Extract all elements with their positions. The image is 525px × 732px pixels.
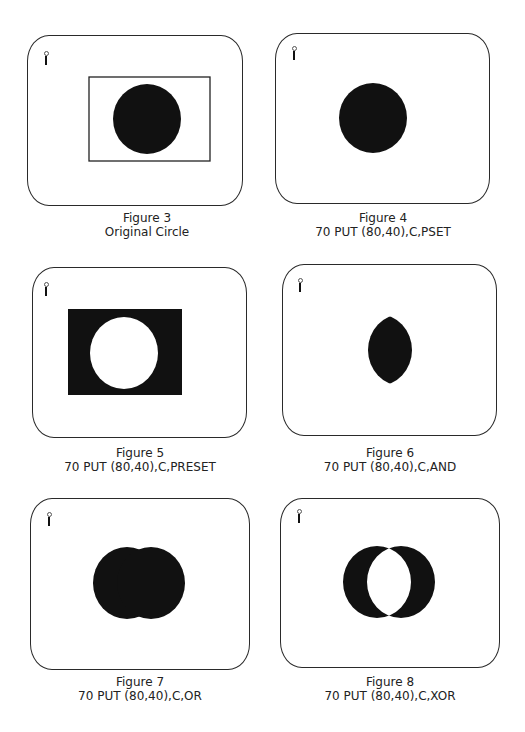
graphic-xor <box>0 0 525 732</box>
figure-number: Figure 8 <box>290 675 490 689</box>
figure-caption: 70 PUT (80,40),C,XOR <box>290 689 490 703</box>
